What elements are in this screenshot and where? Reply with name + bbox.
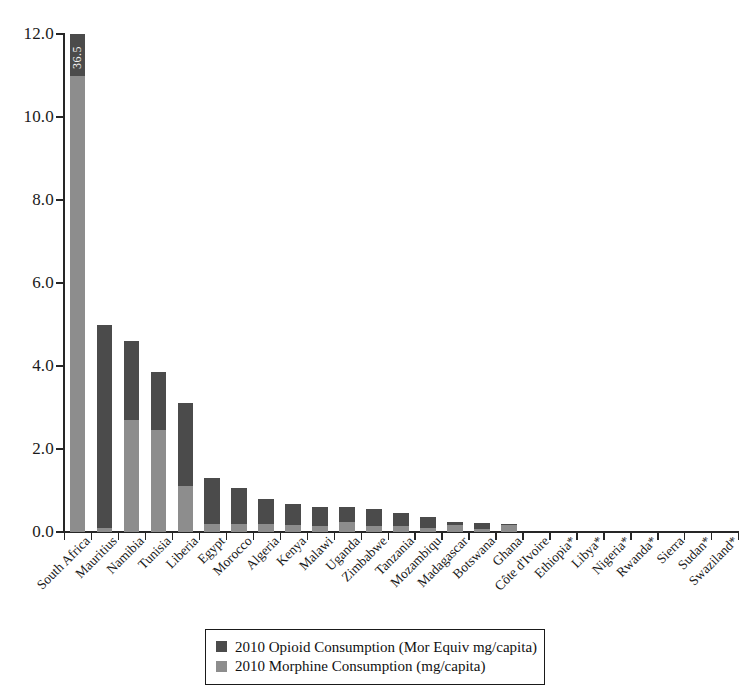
bar-mauritius <box>97 325 113 533</box>
y-tick <box>56 448 64 450</box>
chart-legend: 2010 Opioid Consumption (Mor Equiv mg/ca… <box>205 629 545 685</box>
y-tick-label: 10.0 <box>4 108 54 125</box>
legend-item-morphine: 2010 Morphine Consumption (mg/capita) <box>216 657 534 675</box>
y-tick <box>56 365 64 367</box>
bar-series-group: 36.5 <box>64 34 738 532</box>
legend-label-morphine: 2010 Morphine Consumption (mg/capita) <box>235 657 485 675</box>
bar-segment-opioid <box>151 372 167 430</box>
stacked-bar-chart: 0.02.04.06.08.010.012.0 36.5 South Afric… <box>0 0 751 686</box>
bar-south-africa: 36.5 <box>70 34 86 532</box>
legend-label-opioid: 2010 Opioid Consumption (Mor Equiv mg/ca… <box>235 638 537 656</box>
legend-item-opioid: 2010 Opioid Consumption (Mor Equiv mg/ca… <box>216 638 534 656</box>
y-tick <box>56 33 64 35</box>
legend-swatch-morphine <box>216 661 227 672</box>
bar-value-label: 36.5 <box>70 46 85 69</box>
y-tick-label: 8.0 <box>4 191 54 208</box>
y-tick <box>56 199 64 201</box>
y-tick-label: 6.0 <box>4 274 54 291</box>
y-tick-label: 12.0 <box>4 25 54 42</box>
y-tick-label: 2.0 <box>4 440 54 457</box>
bar-segment-morphine <box>70 76 86 533</box>
plot-area: 0.02.04.06.08.010.012.0 36.5 <box>64 34 738 532</box>
y-tick <box>56 116 64 118</box>
y-tick <box>56 531 64 533</box>
legend-swatch-opioid <box>216 641 227 652</box>
bar-segment-opioid <box>97 325 113 528</box>
bar-segment-opioid <box>178 403 194 486</box>
bar-segment-opioid <box>124 341 140 420</box>
y-tick-label: 4.0 <box>4 357 54 374</box>
y-tick <box>56 282 64 284</box>
x-axis-category-labels: South AfricaMauritiusNamibiaTunisiaLiber… <box>64 534 740 624</box>
y-tick-label: 0.0 <box>4 523 54 540</box>
